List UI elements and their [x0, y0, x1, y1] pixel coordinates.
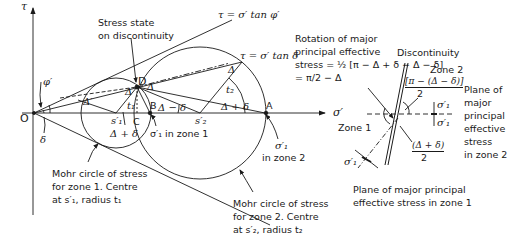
angle-bottom-numerator: (Δ + δ): [412, 140, 444, 152]
plane-zone2-label-6: in zone 2: [464, 149, 507, 160]
rotation-label-3: stress = ½ [π − Δ + δ − Δ − δ]: [295, 59, 443, 70]
mohr2-label-3: at s′₂, radius t₂: [233, 224, 302, 235]
plane-zone2-label-4: effective: [464, 123, 505, 134]
origin-label: O: [20, 113, 29, 124]
plane-zone2-label-2: major: [464, 97, 491, 108]
plane-zone2-label-1: Plane of: [464, 84, 502, 95]
sigma1-label-a: σ′₁: [437, 99, 450, 110]
plane-zone2-label-5: stress: [464, 136, 492, 147]
sigma1-label-c: σ′₁: [344, 156, 357, 167]
t2-label: t₂: [226, 84, 234, 95]
rotation-label-2: principal effective: [295, 46, 380, 57]
Delta-prime-label: Δ′: [83, 96, 93, 107]
point-B: B: [150, 100, 157, 111]
plane-zone2-label-3: principal: [464, 110, 505, 121]
rotation-label-1: Rotation of major: [295, 33, 377, 44]
sigma1-label-b: σ′₁: [437, 117, 450, 128]
zone1-label: Zone 1: [338, 122, 371, 133]
Delta-minus-delta-label: Δ − δ: [158, 102, 186, 113]
sigma1-zone1-label: σ′₁ in zone 1: [150, 128, 208, 139]
Delta-label-2: Δ: [147, 81, 154, 92]
stress-state-label-1: Stress state: [98, 17, 154, 28]
delta-line-label: τ = σ′ tan δ: [240, 50, 298, 61]
plane-zone1-label-2: effective stress in zone 1: [353, 197, 472, 208]
point-C: C: [133, 116, 140, 127]
tau-axis-label: τ: [21, 1, 27, 12]
mohr1-label-1: Mohr circle of stress: [52, 168, 148, 179]
point-A: A: [266, 100, 273, 111]
discontinuity-label: Discontinuity: [397, 47, 459, 58]
mohr2-label-2: for zone 2. Centre: [233, 211, 319, 222]
Delta-plus-delta-label-1: Δ + δ: [110, 128, 138, 139]
phi-line-label: τ = σ′ tan φ′: [218, 9, 279, 20]
angle-top-denominator: 2: [417, 88, 423, 99]
Delta-label-1: Δ: [125, 86, 132, 97]
delta-angle-label: δ: [40, 134, 46, 145]
Delta-plus-delta-label-2: Δ + δ: [221, 101, 249, 112]
mohr1-label-2: for zone 1. Centre: [52, 181, 138, 192]
Delta-label-3: Δ: [228, 64, 235, 75]
point-D: D: [138, 76, 146, 87]
mohr2-label-1: Mohr circle of stress: [233, 198, 329, 209]
sigma1-zone2-label-1: σ′₁: [275, 140, 288, 151]
angle-bottom-denominator: 2: [421, 152, 427, 163]
stress-state-label-2: on discontinuity: [98, 30, 174, 41]
zone2-label: Zone 2: [430, 64, 463, 75]
t1-label: t₁: [127, 100, 135, 111]
angle-top-numerator: [π − (Δ − δ)]: [405, 76, 463, 88]
phi-angle-label: φ′: [43, 76, 52, 87]
mohr1-label-3: at s′₁, radius t₁: [52, 194, 121, 205]
point-s2: s′₂: [195, 115, 206, 126]
point-s1: s′₁: [111, 115, 122, 126]
plane-zone1-label-1: Plane of major principal: [353, 184, 466, 195]
rotation-label-4: = π/2 − Δ: [295, 72, 341, 83]
sigma1-zone2-label-2: in zone 2: [262, 152, 305, 163]
sigma-axis-label: σ′: [333, 107, 343, 118]
